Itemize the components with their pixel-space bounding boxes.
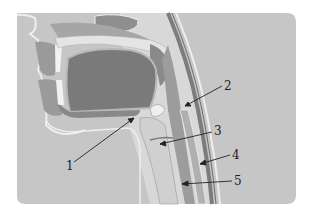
label-1: 1 (66, 159, 74, 173)
label-5: 5 (234, 174, 242, 188)
tongue (66, 49, 156, 112)
anatomy-diagram: 1 2 3 4 5 (0, 0, 313, 214)
label-4: 4 (232, 148, 240, 162)
label-3: 3 (214, 124, 222, 138)
label-2: 2 (224, 79, 232, 93)
